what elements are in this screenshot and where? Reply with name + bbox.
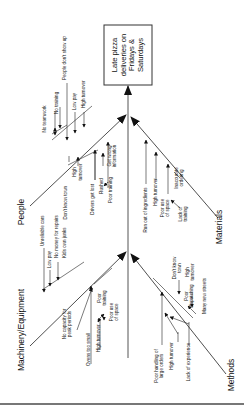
cause-no-training: No training [54,91,59,114]
cause-large-orders: large orders [159,353,164,378]
cause-rushed: Rushed [99,178,104,194]
cause-peak-periods: peak periods [67,310,72,337]
category-materials: Materials [214,210,224,244]
cause-drivers-get-lost: Drivers get lost [90,183,95,214]
cause-high-turnover-2: High turnover [153,178,158,206]
fishbone-diagram: Late pizza deliveries on Fridays & Satur… [0,0,244,408]
cause-no-teamwork: No teamwork [42,105,47,133]
cause-of-space-2: of space [114,303,119,321]
cause-turnover-2: turnover [190,263,195,280]
cause-dont-know-town: Don't know town [63,186,68,220]
cause-town: town [177,263,182,273]
cause-run-out-of-ingredients: Run out of ingredients [143,187,148,233]
category-machinery-equipment: Machinery/Equipment [16,288,26,371]
materials-causes: Run out of ingredients High turnover Poo… [143,140,188,232]
cause-many-new-streets: Many new streets [202,277,207,314]
cause-unreliable-cars: Unreliable cars [40,215,45,246]
cause-turnover: turnover [78,163,83,180]
cause-of-space: of space [165,199,170,217]
category-people: People [16,198,26,225]
cause-high-turnover-4: High turnover [169,342,174,370]
cause-high: High [72,167,77,177]
cause-lack-of-experience: Lack of experience [186,342,191,381]
machinery-causes: Unreliable cars Low pay No money for rep… [40,214,119,366]
effect-box: Late pizza deliveries on Fridays & Satur… [104,25,152,85]
category-methods: Methods [226,359,236,392]
cause-dispatching: dispatching [189,284,194,308]
cause-training-2: training [102,290,107,306]
cause-training: training [183,206,188,222]
cause-high-turnover-3: High turnover [96,324,101,352]
bottom-rule [0,403,244,405]
cause-high-turnover-1: High turnover [81,80,86,108]
cause-poor-training: Poor training [108,177,113,203]
cause-ovens-too-small: Ovens too small [86,333,91,366]
cause-low-pay-2: Low pay [47,250,52,268]
effect-line-4: Saturdays [136,38,145,72]
methods-causes: Poor handling of large orders High turno… [153,256,207,383]
cause-ordering: ordering [179,169,184,186]
cause-low-pay: Low pay [72,92,77,110]
cause-information: information [112,144,117,167]
cause-people-dont-show-up: People don't show up [62,36,67,80]
cause-no-money-for-repairs: No money for repairs [54,214,59,258]
cause-kids-own-junks: Kids own junks [62,227,67,258]
